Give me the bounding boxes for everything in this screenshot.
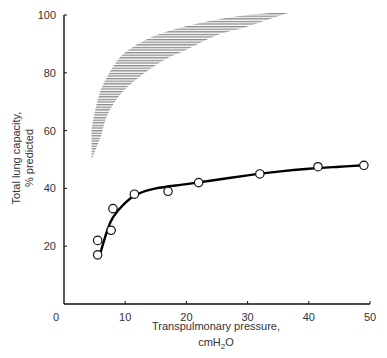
y-axis-title-unit: % predicted [23, 129, 35, 187]
x-axis-title: Transpulmonary pressure, [152, 320, 280, 332]
data-point-marker [109, 204, 117, 212]
data-points [93, 161, 368, 259]
chart-canvas: 01020304050 20406080100 Transpulmonary p… [0, 0, 387, 358]
data-point-marker [194, 178, 202, 186]
data-point-marker [130, 190, 138, 198]
x-axis-unit: cmH2O [198, 336, 234, 351]
y-axis-title: Total lung capacity, [10, 112, 22, 205]
data-point-marker [93, 236, 101, 244]
data-point-marker [314, 163, 322, 171]
x-tick-label: 40 [303, 311, 315, 323]
x-tick-label: 10 [119, 311, 131, 323]
normal-range-band [92, 12, 291, 159]
y-tick-label: 80 [44, 67, 56, 79]
data-point-marker [93, 251, 101, 259]
y-axis-ticks: 20406080100 [38, 9, 67, 252]
data-point-marker [256, 170, 264, 178]
y-tick-label: 60 [44, 125, 56, 137]
y-tick-label: 40 [44, 182, 56, 194]
x-tick-label: 50 [364, 311, 376, 323]
data-point-marker [164, 187, 172, 195]
data-point-marker [107, 226, 115, 234]
x-tick-label: 0 [53, 311, 59, 323]
y-tick-label: 20 [44, 240, 56, 252]
fitted-curve [101, 165, 364, 252]
y-tick-label: 100 [38, 9, 56, 21]
data-point-marker [360, 161, 368, 169]
